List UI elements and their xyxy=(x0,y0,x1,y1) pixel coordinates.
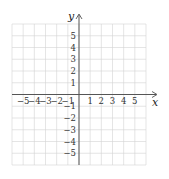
y-tick-label: 1 xyxy=(71,78,76,88)
axes xyxy=(12,14,157,165)
y-tick-label: 3 xyxy=(71,54,76,64)
y-tick-label: −1 xyxy=(63,101,76,111)
y-tick-label: −2 xyxy=(63,113,76,123)
y-tick-label: 5 xyxy=(71,31,76,41)
x-axis-label: x xyxy=(152,96,159,109)
x-tick-label: 3 xyxy=(110,96,115,106)
y-tick-label: −5 xyxy=(63,148,76,158)
y-tick-label: 4 xyxy=(71,43,76,53)
coordinate-plane: −5−4−3−2−11234554321−1−2−3−4−5 x y xyxy=(0,0,169,179)
x-tick-label: 4 xyxy=(121,96,126,106)
x-tick-label: 2 xyxy=(99,96,104,106)
x-tick-label: 5 xyxy=(132,96,137,106)
y-axis-label: y xyxy=(67,10,75,23)
y-tick-label: −4 xyxy=(63,137,76,147)
x-tick-label: 1 xyxy=(87,96,92,106)
y-tick-label: −3 xyxy=(63,125,76,135)
y-tick-label: 2 xyxy=(71,66,76,76)
